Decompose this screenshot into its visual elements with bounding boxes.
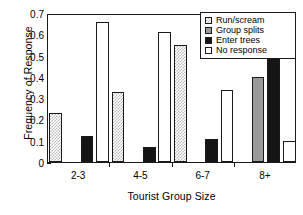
bar: [49, 113, 62, 162]
legend-swatch-icon: [205, 47, 212, 54]
y-tick-label: 0.1: [30, 136, 44, 147]
legend-item[interactable]: Run/scream: [205, 16, 292, 26]
bar: [112, 92, 125, 162]
x-tick-label: 4-5: [133, 170, 147, 181]
legend-label: No response: [216, 46, 267, 55]
legend-label: Run/scream: [216, 16, 265, 25]
legend-label: Group splits: [216, 26, 264, 35]
y-tick-label: 0.3: [30, 94, 44, 105]
legend-swatch-icon: [205, 17, 212, 24]
bar: [267, 56, 280, 162]
x-tick-mark: [109, 163, 110, 167]
x-tick-label: 6-7: [195, 170, 209, 181]
legend-swatch-icon: [205, 27, 212, 34]
x-tick-label: 8+: [259, 170, 270, 181]
bar: [252, 77, 265, 162]
bar: [143, 147, 156, 162]
bar: [283, 141, 296, 162]
legend-item[interactable]: No response: [205, 46, 292, 56]
bar: [81, 136, 94, 162]
y-tick-label: 0.4: [30, 72, 44, 83]
bar: [205, 139, 218, 162]
bar: [158, 32, 171, 162]
legend-label: Enter trees: [216, 36, 260, 45]
y-tick-label: 0.7: [30, 9, 44, 20]
legend-item[interactable]: Group splits: [205, 26, 292, 36]
x-axis-label: Tourist Group Size: [47, 190, 296, 202]
bar: [96, 22, 109, 162]
chart-legend: Run/screamGroup splitsEnter treesNo resp…: [200, 12, 296, 59]
x-tick-mark: [234, 163, 235, 167]
y-tick-label: 0.2: [30, 115, 44, 126]
y-tick-label: 0.6: [30, 30, 44, 41]
legend-item[interactable]: Enter trees: [205, 36, 292, 46]
x-tick-label: 2-3: [71, 170, 85, 181]
bar: [174, 45, 187, 162]
bar: [221, 90, 234, 162]
y-tick-label: 0: [38, 158, 44, 169]
x-tick-mark: [172, 163, 173, 167]
chart-figure: Frequency of Response 00.10.20.30.40.50.…: [0, 0, 303, 215]
legend-swatch-icon: [205, 37, 212, 44]
y-tick-label: 0.5: [30, 51, 44, 62]
y-tick-mark: [47, 163, 51, 164]
